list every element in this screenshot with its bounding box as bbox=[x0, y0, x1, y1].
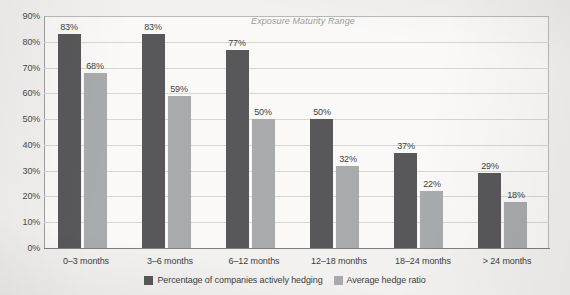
y-axis-tick-label: 60% bbox=[2, 89, 40, 98]
x-axis-line bbox=[44, 248, 550, 249]
bar-companies-hedging bbox=[142, 34, 165, 248]
bar-companies-hedging bbox=[394, 153, 417, 248]
y-axis-tick-label: 70% bbox=[2, 64, 40, 73]
gridline bbox=[44, 145, 549, 146]
bar-hedge-ratio bbox=[336, 166, 359, 248]
legend-label: Percentage of companies actively hedging bbox=[157, 276, 322, 285]
chart-title: Exposure Maturity Range bbox=[228, 16, 378, 26]
bar-value-label: 83% bbox=[49, 23, 89, 32]
chart-legend: Percentage of companies actively hedging… bbox=[0, 276, 570, 285]
y-axis-tick-label: 30% bbox=[2, 167, 40, 176]
bar-value-label: 77% bbox=[217, 39, 257, 48]
legend-swatch-icon bbox=[144, 276, 153, 285]
bar-value-label: 59% bbox=[159, 85, 199, 94]
legend-label: Average hedge ratio bbox=[347, 276, 426, 285]
bar-value-label: 50% bbox=[243, 108, 283, 117]
bar-value-label: 32% bbox=[328, 155, 368, 164]
y-axis-tick-label: 90% bbox=[2, 12, 40, 21]
bar-hedge-ratio bbox=[84, 73, 107, 248]
bar-value-label: 18% bbox=[496, 191, 536, 200]
gridline bbox=[44, 119, 549, 120]
legend-item[interactable]: Percentage of companies actively hedging bbox=[144, 276, 322, 285]
legend-swatch-icon bbox=[334, 276, 343, 285]
gridline bbox=[44, 93, 549, 94]
y-axis-tick-label: 0% bbox=[2, 244, 40, 253]
y-axis: 0%10%20%30%40%50%60%70%80%90% bbox=[0, 0, 40, 295]
plot-area bbox=[44, 16, 549, 248]
bar-companies-hedging bbox=[310, 119, 333, 248]
y-axis-tick-label: 80% bbox=[2, 38, 40, 47]
bar-value-label: 29% bbox=[470, 162, 510, 171]
bar-value-label: 68% bbox=[75, 62, 115, 71]
gridline bbox=[44, 42, 549, 43]
bar-hedge-ratio bbox=[168, 96, 191, 248]
bar-value-label: 37% bbox=[386, 142, 426, 151]
legend-item[interactable]: Average hedge ratio bbox=[334, 276, 426, 285]
bar-chart: 0%10%20%30%40%50%60%70%80%90% 83%68%83%5… bbox=[0, 0, 570, 295]
bar-value-label: 83% bbox=[133, 23, 173, 32]
y-axis-tick-label: 10% bbox=[2, 218, 40, 227]
category-label: > 24 months bbox=[452, 256, 562, 266]
bar-hedge-ratio bbox=[420, 191, 443, 248]
bar-companies-hedging bbox=[226, 50, 249, 248]
gridline bbox=[44, 171, 549, 172]
bar-companies-hedging bbox=[478, 173, 501, 248]
bar-hedge-ratio bbox=[252, 119, 275, 248]
y-axis-tick-label: 50% bbox=[2, 115, 40, 124]
bar-hedge-ratio bbox=[504, 202, 527, 248]
bar-value-label: 50% bbox=[302, 108, 342, 117]
bar-value-label: 22% bbox=[412, 180, 452, 189]
gridline bbox=[44, 196, 549, 197]
y-axis-tick-label: 20% bbox=[2, 192, 40, 201]
gridline bbox=[44, 68, 549, 69]
y-axis-tick-label: 40% bbox=[2, 141, 40, 150]
gridline bbox=[44, 222, 549, 223]
